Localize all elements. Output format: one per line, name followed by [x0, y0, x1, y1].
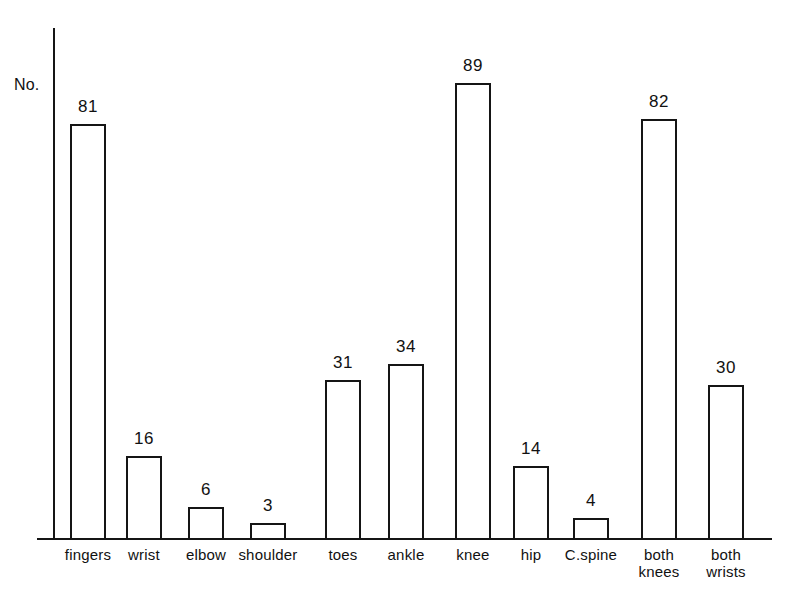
bar-value-label: 89: [435, 57, 511, 74]
bar-value-label: 3: [230, 497, 306, 514]
bar-shoulder: [250, 523, 286, 538]
bar-wrist: [126, 456, 162, 538]
bar-value-label: 34: [368, 338, 444, 355]
bar-value-label: 82: [621, 93, 697, 110]
bar-toes: [325, 380, 361, 538]
x-tick-label: both wrists: [686, 546, 766, 580]
bar-elbow: [188, 507, 224, 538]
bar-both-wrists: [708, 385, 744, 538]
bar-chart-figure: No. 81fingers16wrist6elbow3shoulder31toe…: [0, 0, 796, 590]
bar-ankle: [388, 364, 424, 538]
bar-value-label: 4: [553, 492, 629, 509]
bar-knee: [455, 83, 491, 538]
bar-both-knees: [641, 119, 677, 538]
bar-value-label: 81: [50, 98, 126, 115]
bar-value-label: 30: [688, 359, 764, 376]
bar-hip: [513, 466, 549, 538]
bar-value-label: 31: [305, 354, 381, 371]
bar-c-spine: [573, 518, 609, 538]
bar-value-label: 16: [106, 430, 182, 447]
x-tick-label: shoulder: [228, 546, 308, 563]
bar-fingers: [70, 124, 106, 538]
bar-value-label: 14: [493, 440, 569, 457]
plot-area: 81fingers16wrist6elbow3shoulder31toes34a…: [0, 0, 796, 590]
